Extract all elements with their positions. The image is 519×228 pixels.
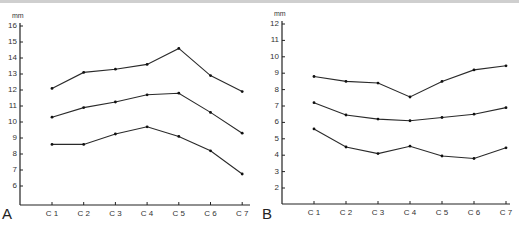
y-tick-label: 16 bbox=[8, 21, 17, 30]
y-tick-label: 9 bbox=[275, 68, 280, 77]
series-line-lower bbox=[314, 129, 506, 159]
data-point bbox=[114, 68, 117, 71]
data-point bbox=[209, 74, 212, 77]
y-tick-label: 8 bbox=[13, 149, 18, 158]
panel-label: B bbox=[262, 205, 272, 222]
y-tick-label: 4 bbox=[275, 150, 280, 159]
data-point bbox=[51, 116, 54, 119]
y-tick-label: 12 bbox=[270, 19, 279, 28]
x-tick-label: C 1 bbox=[46, 209, 59, 218]
data-point bbox=[441, 80, 444, 83]
data-point bbox=[313, 128, 316, 131]
y-tick-label: 10 bbox=[270, 52, 279, 61]
x-tick-label: C 3 bbox=[109, 209, 122, 218]
series-line-upper bbox=[52, 48, 242, 91]
y-unit-label: mm bbox=[274, 10, 286, 17]
x-tick-label: C 5 bbox=[173, 209, 186, 218]
y-unit-label: mm bbox=[12, 12, 24, 19]
y-tick-label: 3 bbox=[275, 167, 280, 176]
data-point bbox=[177, 135, 180, 138]
x-tick-label: C 3 bbox=[372, 208, 385, 217]
data-point bbox=[114, 133, 117, 136]
x-tick-label: C 4 bbox=[141, 209, 154, 218]
data-point bbox=[409, 145, 412, 148]
y-tick-label: 13 bbox=[8, 69, 17, 78]
data-point bbox=[82, 71, 85, 74]
x-tick-label: C 4 bbox=[404, 208, 417, 217]
line-charts: mm678910111213141516C 1C 2C 3C 4C 5C 6C … bbox=[0, 0, 519, 228]
data-point bbox=[313, 75, 316, 78]
data-point bbox=[377, 82, 380, 85]
data-point bbox=[177, 47, 180, 50]
x-tick-label: C 5 bbox=[436, 208, 449, 217]
x-tick-label: C 1 bbox=[308, 208, 321, 217]
panel-label: A bbox=[2, 205, 12, 222]
x-tick-label: C 6 bbox=[204, 209, 217, 218]
data-point bbox=[505, 106, 508, 109]
y-tick-label: 6 bbox=[13, 181, 18, 190]
data-point bbox=[114, 101, 117, 104]
data-point bbox=[146, 125, 149, 128]
data-point bbox=[241, 173, 244, 176]
series-line-lower bbox=[52, 127, 242, 174]
x-tick-label: C 7 bbox=[236, 209, 249, 218]
series-line-middle bbox=[314, 103, 506, 121]
chart-panel-b: mm23456789101112C 1C 2C 3C 4C 5C 6C 7B bbox=[262, 10, 513, 222]
data-point bbox=[345, 80, 348, 83]
data-point bbox=[377, 152, 380, 155]
data-point bbox=[409, 119, 412, 122]
x-tick-label: C 2 bbox=[77, 209, 90, 218]
data-point bbox=[441, 155, 444, 158]
data-point bbox=[473, 69, 476, 72]
y-tick-label: 2 bbox=[275, 183, 280, 192]
data-point bbox=[241, 132, 244, 135]
y-tick-label: 11 bbox=[271, 35, 280, 44]
y-tick-label: 8 bbox=[275, 85, 280, 94]
data-point bbox=[345, 114, 348, 117]
y-tick-label: 6 bbox=[275, 117, 280, 126]
data-point bbox=[377, 118, 380, 121]
data-point bbox=[505, 146, 508, 149]
data-point bbox=[505, 64, 508, 67]
y-tick-label: 14 bbox=[8, 53, 17, 62]
data-point bbox=[82, 143, 85, 146]
data-point bbox=[146, 93, 149, 96]
data-point bbox=[473, 113, 476, 116]
y-tick-label: 15 bbox=[8, 37, 17, 46]
data-point bbox=[313, 101, 316, 104]
y-tick-label: 7 bbox=[275, 101, 280, 110]
data-point bbox=[82, 106, 85, 109]
series-line-upper bbox=[314, 66, 506, 97]
chart-panel-a: mm678910111213141516C 1C 2C 3C 4C 5C 6C … bbox=[2, 12, 250, 222]
data-point bbox=[409, 96, 412, 99]
y-tick-label: 12 bbox=[8, 85, 17, 94]
y-tick-label: 9 bbox=[13, 133, 18, 142]
y-tick-label: 11 bbox=[9, 101, 18, 110]
data-point bbox=[209, 111, 212, 114]
x-tick-label: C 2 bbox=[340, 208, 353, 217]
data-point bbox=[146, 63, 149, 66]
data-point bbox=[51, 87, 54, 90]
x-tick-label: C 6 bbox=[468, 208, 481, 217]
data-point bbox=[473, 157, 476, 160]
x-tick-label: C 7 bbox=[500, 208, 513, 217]
data-point bbox=[177, 92, 180, 95]
y-tick-label: 10 bbox=[8, 117, 17, 126]
y-tick-label: 7 bbox=[13, 165, 18, 174]
data-point bbox=[441, 116, 444, 119]
data-point bbox=[345, 146, 348, 149]
data-point bbox=[241, 90, 244, 93]
y-tick-label: 5 bbox=[275, 134, 280, 143]
data-point bbox=[51, 143, 54, 146]
data-point bbox=[209, 149, 212, 152]
